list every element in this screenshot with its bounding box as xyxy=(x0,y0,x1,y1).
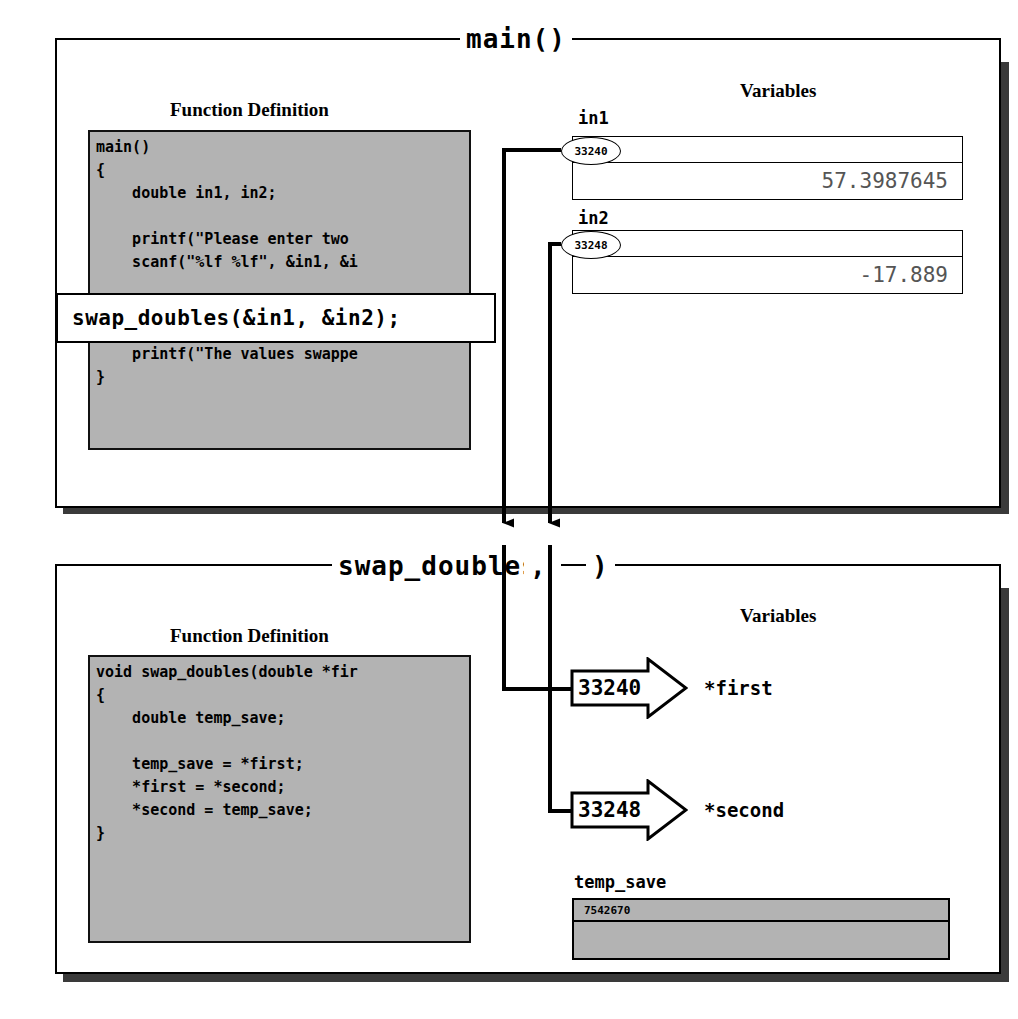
parameter-arrow-second: 33248 xyxy=(570,779,688,841)
address-ellipse-in2: 33248 xyxy=(561,231,621,259)
highlighted-call-text: swap_doubles(&in1, &in2); xyxy=(58,306,401,330)
variable-label-temp-save: temp_save xyxy=(574,872,666,892)
address-text-in2: 33248 xyxy=(574,239,607,252)
parameter-address-second: 33248 xyxy=(578,779,641,841)
main-code-box: main() { double in1, in2; printf("Please… xyxy=(88,130,471,450)
parameter-name-second: *second xyxy=(704,799,784,821)
main-variables-caption: Variables xyxy=(740,80,816,102)
variable-address-temp-save: 7542670 xyxy=(574,904,630,917)
swap-code-box: void swap_doubles(double *fir { double t… xyxy=(88,655,471,943)
variable-box-temp-save: 7542670 xyxy=(572,898,950,960)
swap-frame-title-separator: , xyxy=(524,551,553,581)
variable-label-in1: in1 xyxy=(578,108,609,128)
parameter-arrow-first: 33240 xyxy=(570,657,688,719)
parameter-address-first: 33240 xyxy=(578,657,641,719)
parameter-name-first: *first xyxy=(704,677,773,699)
diagram-canvas: main() Function Definition main() { doub… xyxy=(0,0,1018,1019)
swap-frame-title-suffix: ) xyxy=(586,551,615,581)
variable-label-in2: in2 xyxy=(578,208,609,228)
variable-value-row-in2: -17.889 xyxy=(572,256,963,294)
variable-value-in2: -17.889 xyxy=(859,263,962,287)
variable-address-row-temp-save: 7542670 xyxy=(572,898,950,920)
main-code-text: main() { double in1, in2; printf("Please… xyxy=(90,132,469,389)
address-ellipse-in1: 33240 xyxy=(561,137,621,165)
main-frame-title: main() xyxy=(460,24,572,54)
variable-box-in2: -17.889 xyxy=(572,230,963,294)
swap-code-text: void swap_doubles(double *fir { double t… xyxy=(90,657,469,845)
variable-value-row-in1: 57.3987645 xyxy=(572,162,963,200)
swap-variables-caption: Variables xyxy=(740,605,816,627)
variable-box-in1: 57.3987645 xyxy=(572,136,963,200)
highlighted-call-box[interactable]: swap_doubles(&in1, &in2); xyxy=(56,293,496,343)
variable-address-row-in1 xyxy=(572,136,963,162)
variable-value-row-temp-save xyxy=(572,920,950,960)
variable-address-row-in2 xyxy=(572,230,963,256)
variable-value-in1: 57.3987645 xyxy=(822,169,962,193)
address-text-in1: 33240 xyxy=(574,145,607,158)
main-function-definition-caption: Function Definition xyxy=(170,99,329,121)
swap-function-definition-caption: Function Definition xyxy=(170,625,329,647)
